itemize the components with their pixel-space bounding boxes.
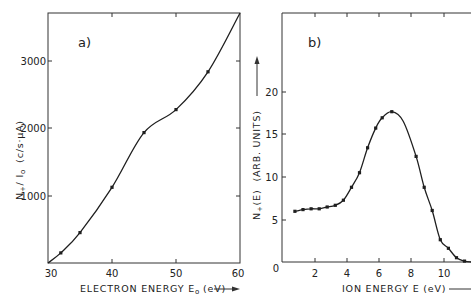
data-point-marker: [366, 146, 369, 149]
panel-b-x-tick-4: 4: [344, 268, 350, 279]
panel-b-y-tick-10: 10: [265, 172, 278, 183]
panel-b-data-points: [293, 110, 466, 263]
panel-b-x-ticks: [315, 13, 444, 262]
panel-b-x-tick-2: 2: [312, 268, 318, 279]
panel-b-x-axis-label: ION ENERGY E (eV): [342, 283, 471, 294]
panel-b-curve: [295, 112, 471, 262]
data-point-marker: [431, 209, 434, 212]
data-point-marker: [174, 108, 177, 111]
svg-text:ION ENERGY E (eV): ION ENERGY E (eV): [342, 283, 446, 294]
panel-b-y-tick-15: 15: [265, 129, 278, 140]
panel-a-label: a): [78, 35, 91, 50]
data-point-marker: [142, 131, 145, 134]
data-point-marker: [439, 238, 442, 241]
data-point-marker: [110, 186, 113, 189]
data-point-marker: [342, 199, 345, 202]
panel-b-y-tick-0: 0: [273, 263, 279, 274]
data-point-marker: [293, 210, 296, 213]
figure: 30 40 50 60 1000 2000 3000 a) ELECTRON E…: [0, 0, 471, 304]
data-point-marker: [374, 127, 377, 130]
data-point-marker: [415, 155, 418, 158]
data-point-marker: [423, 186, 426, 189]
panel-a-x-ticks: [112, 13, 176, 263]
panel-a-x-axis-label: ELECTRON ENERGY Eo(eV): [80, 283, 240, 296]
panel-a-curve: [48, 13, 240, 263]
data-point-marker: [206, 70, 209, 73]
arrow-up-icon: [255, 56, 260, 64]
panel-b-x-tick-6: 6: [376, 268, 382, 279]
panel-a-frame: [48, 13, 240, 263]
panel-a-x-tick-30: 30: [45, 268, 58, 279]
data-point-marker: [334, 204, 337, 207]
data-point-marker: [463, 260, 466, 263]
panel-b-label: b): [308, 35, 321, 50]
data-point-marker: [318, 207, 321, 210]
panel-a: 30 40 50 60 1000 2000 3000 a) ELECTRON E…: [14, 13, 244, 296]
panel-b-y-ticks: [282, 92, 286, 220]
panel-b-y-arrow: [255, 56, 260, 96]
data-point-marker: [78, 231, 81, 234]
data-point-marker: [350, 186, 353, 189]
panel-a-x-tick-50: 50: [170, 268, 183, 279]
panel-b-x-tick-8: 8: [408, 268, 414, 279]
data-point-marker: [358, 171, 361, 174]
panel-a-x-tick-60: 60: [232, 268, 245, 279]
panel-b-x-tick-10: 10: [438, 268, 451, 279]
svg-text:ELECTRON ENERGY Eo(eV): ELECTRON ENERGY Eo(eV): [80, 283, 226, 296]
arrow-right-icon: [232, 287, 240, 292]
panel-b-y-axis-label: N+(E)(ARB. UNITS): [251, 110, 264, 220]
data-point-marker: [326, 205, 329, 208]
data-point-marker: [310, 207, 313, 210]
data-point-marker: [455, 256, 458, 259]
data-point-marker: [59, 251, 62, 254]
panel-b: 0 5 10 15 20 2 4 6 8 10 b) ION ENERGY E …: [251, 13, 471, 294]
data-point-marker: [301, 208, 304, 211]
data-point-marker: [381, 116, 384, 119]
panel-b-y-tick-20: 20: [265, 87, 278, 98]
data-point-marker: [447, 247, 450, 250]
svg-text:N+(E)(ARB. UNITS): N+(E)(ARB. UNITS): [251, 110, 264, 220]
panel-a-y-tick-3000: 3000: [21, 56, 46, 67]
data-point-marker: [390, 110, 393, 113]
panel-b-y-tick-5: 5: [272, 215, 278, 226]
panel-a-y-ticks: [48, 61, 240, 196]
panel-a-x-tick-40: 40: [106, 268, 119, 279]
